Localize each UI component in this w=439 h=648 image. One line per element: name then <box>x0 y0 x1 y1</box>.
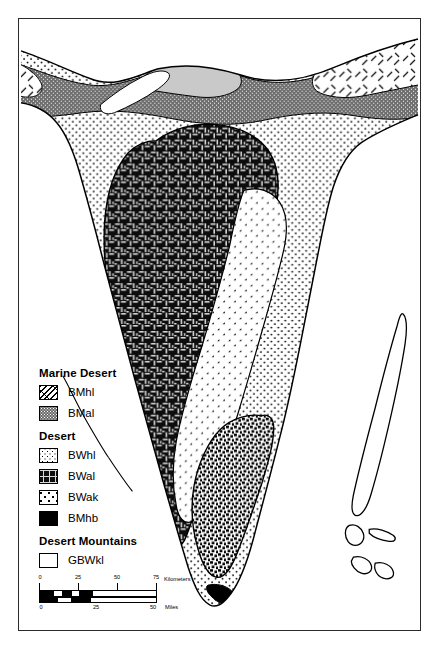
legend-row-bwhl[interactable]: BWhl <box>37 446 157 465</box>
legend-group-desert-mountains: Desert Mountains GBWkl <box>37 535 157 570</box>
scalebar-km-ticks: 0 25 50 75 Kilometers <box>39 583 219 590</box>
legend-group-desert: Desert BWhl BWal BWak BMhb <box>37 430 157 528</box>
legend-swatch-bmhl <box>39 385 58 400</box>
legend-label-bmhb: BMhb <box>68 512 98 525</box>
legend-row-bmal[interactable]: BMal <box>37 404 157 423</box>
legend-label-gbwkl: GBWkl <box>68 554 104 567</box>
scalebar-mi-unit: Miles <box>165 604 178 610</box>
legend-row-bmhb[interactable]: BMhb <box>37 509 157 528</box>
map-frame: Marine Desert BMhl BMal Desert BWhl <box>18 18 421 631</box>
legend-heading-desert: Desert <box>39 430 157 443</box>
scalebar-km-unit: Kilometers <box>164 576 190 582</box>
legend-swatch-bmhb <box>39 511 58 526</box>
legend-label-bmal: BMal <box>68 407 94 420</box>
legend-label-bmhl: BMhl <box>68 386 94 399</box>
scalebar-km-tick-2: 50 <box>114 574 120 580</box>
scalebar-mi-tick-2: 50 <box>150 604 156 610</box>
legend-label-bwak: BWak <box>68 491 98 504</box>
legend-row-bmhl[interactable]: BMhl <box>37 383 157 402</box>
legend-row-bwak[interactable]: BWak <box>37 488 157 507</box>
scalebar-km-bar <box>39 590 157 597</box>
legend-swatch-bwal <box>39 469 58 484</box>
legend-swatch-bwak <box>39 490 58 505</box>
legend-swatch-gbwkl <box>39 553 58 568</box>
scalebar-km-tick-0: 0 <box>38 574 41 580</box>
legend-swatch-bwhl <box>39 448 58 463</box>
scalebar-mi-bar: 0 25 50 Miles <box>39 597 157 603</box>
legend-row-gbwkl[interactable]: GBWkl <box>37 551 157 570</box>
legend-swatch-bmal <box>39 406 58 421</box>
map-screenshot: Marine Desert BMhl BMal Desert BWhl <box>0 0 439 648</box>
map-scalebar: 0 25 50 75 Kilometers 0 25 50 Miles <box>39 583 219 603</box>
scalebar-mi-tick-1: 25 <box>93 604 99 610</box>
legend-heading-desert-mountains: Desert Mountains <box>39 535 157 548</box>
scalebar-km-tick-3: 75 <box>153 574 159 580</box>
legend-label-bwal: BWal <box>68 470 95 483</box>
legend-row-bwal[interactable]: BWal <box>37 467 157 486</box>
legend-group-marine-desert: Marine Desert BMhl BMal <box>37 367 157 423</box>
legend-heading-marine-desert: Marine Desert <box>39 367 157 380</box>
map-legend: Marine Desert BMhl BMal Desert BWhl <box>37 367 157 577</box>
scalebar-mi-tick-0: 0 <box>39 604 42 610</box>
gulf-islands <box>345 314 406 579</box>
legend-label-bwhl: BWhl <box>68 449 95 462</box>
scalebar-km-tick-1: 25 <box>75 574 81 580</box>
